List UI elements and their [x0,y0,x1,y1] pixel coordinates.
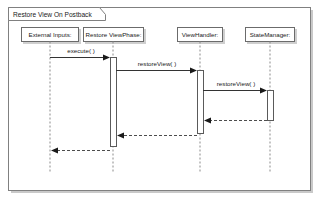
lifeline-label-view-handler: ViewHandler: [182,31,219,38]
lifeline-box-shadow [79,29,81,43]
lifeline-box-shadow [295,29,297,43]
message-restore-view-2-label: restoreView( ) [217,80,255,87]
activation-bar-view-handler [198,71,204,134]
sequence-diagram-canvas: Restore View On Postback External Inputs… [0,0,319,200]
activation-bar-restore-view-phase [111,58,117,147]
activation-bar-state-manager [268,91,274,121]
frame-title-text: Restore View On Postback [13,11,92,18]
lifeline-box-shadow [144,29,146,43]
lifeline-label-external-inputs: External Inputs: [29,31,72,38]
message-execute-label: execute( ) [67,47,95,54]
message-restore-view-1-label: restoreView( ) [138,60,176,67]
sequence-diagram-svg: Restore View On Postback External Inputs… [0,0,319,200]
frame-shadow-right [311,10,313,193]
lifeline-box-shadow [223,29,225,43]
lifeline-box-shadow [85,42,146,44]
lifeline-label-state-manager: StateManager: [250,31,291,38]
frame-shadow-bottom [11,191,313,193]
lifeline-label-restore-view-phase: Restore ViewPhase: [86,31,142,38]
lifeline-box-shadow [247,42,297,44]
lifeline-box-shadow [179,42,225,44]
lifeline-box-shadow [23,42,81,44]
